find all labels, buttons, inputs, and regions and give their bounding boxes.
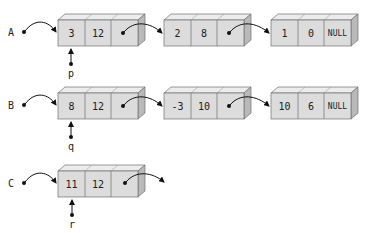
pointer-p-dot bbox=[69, 62, 73, 66]
node-a3: 1 0 NULL bbox=[271, 14, 358, 46]
pointer-q-label: q bbox=[68, 141, 74, 152]
node-c1-data: 11 bbox=[65, 179, 77, 190]
pointer-r-dot bbox=[70, 213, 74, 217]
node-b3-data: 10 bbox=[278, 101, 290, 112]
node-a1: 3 12 bbox=[58, 14, 145, 46]
node-a2-count: 8 bbox=[201, 28, 207, 39]
node-b2: -3 10 bbox=[164, 87, 251, 119]
list-c: C 11 12 r bbox=[8, 165, 164, 230]
node-b1: 8 12 bbox=[58, 87, 145, 119]
node-a1-data: 3 bbox=[68, 28, 74, 39]
list-c-label: C bbox=[8, 178, 14, 189]
pointer-q-dot bbox=[69, 135, 73, 139]
list-a-label: A bbox=[8, 27, 14, 38]
node-c1: 11 12 bbox=[58, 165, 145, 197]
node-b2-count: 10 bbox=[198, 101, 210, 112]
linked-list-diagram: A 3 12 p 2 bbox=[0, 0, 368, 233]
node-a3-data: 1 bbox=[281, 28, 287, 39]
node-b2-data: -3 bbox=[171, 101, 183, 112]
node-a1-count: 12 bbox=[92, 28, 104, 39]
node-b1-data: 8 bbox=[68, 101, 74, 112]
node-b3-null: NULL bbox=[328, 102, 347, 111]
list-a-head-arrow bbox=[25, 22, 56, 32]
list-c-head-arrow bbox=[25, 173, 56, 183]
node-c1-count: 12 bbox=[92, 179, 104, 190]
node-a2-data: 2 bbox=[174, 28, 180, 39]
list-b-label: B bbox=[8, 100, 14, 111]
list-b-head-arrow bbox=[25, 95, 56, 105]
node-a2: 2 8 bbox=[164, 14, 251, 46]
pointer-r-label: r bbox=[69, 219, 75, 230]
list-b: B 8 12 q -3 bbox=[8, 87, 358, 152]
list-a: A 3 12 p 2 bbox=[8, 14, 358, 79]
node-b3: 10 6 NULL bbox=[271, 87, 358, 119]
node-a3-count: 0 bbox=[308, 28, 314, 39]
pointer-p-label: p bbox=[68, 68, 74, 79]
node-b3-count: 6 bbox=[308, 101, 314, 112]
node-a3-null: NULL bbox=[328, 29, 347, 38]
node-b1-count: 12 bbox=[92, 101, 104, 112]
